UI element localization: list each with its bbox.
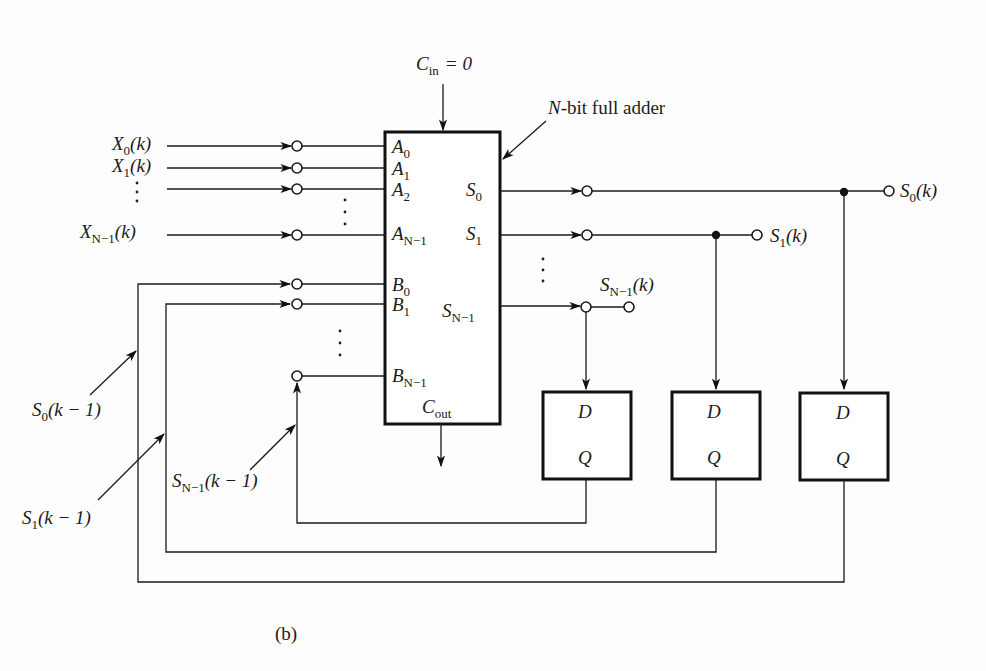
input-xn1-label: XN−1(k): [79, 221, 136, 246]
ff3-d: D: [835, 402, 850, 423]
x-inputs: X0(k) X1(k) XN−1(k): [79, 133, 385, 246]
carry-in: Cin= 0: [416, 53, 472, 130]
feedback-s1-label: S1(k − 1): [22, 507, 91, 532]
feedback-s0-label: S0(k − 1): [32, 399, 101, 424]
circuit-diagram: Cin= 0 A0 A1 A2 AN−1 B0 B1 BN−1 S0 S1 SN…: [0, 0, 986, 671]
figure-caption: (b): [275, 623, 297, 645]
terminal-a2: [292, 184, 302, 194]
carry-in-label: Cin= 0: [416, 53, 472, 78]
ff3-q: Q: [836, 448, 850, 469]
output-s0-label: S0(k): [900, 180, 937, 205]
ff2-q: Q: [707, 447, 721, 468]
feedback-sn1-pointer: [250, 425, 295, 470]
full-adder-block: A0 A1 A2 AN−1 B0 B1 BN−1 S0 S1 SN−1 Cout: [385, 132, 500, 466]
output-ellipsis: [542, 258, 545, 283]
terminal-s1-out: [582, 230, 592, 240]
terminal-bn1: [292, 371, 302, 381]
s-outputs: S0(k) S1(k) SN−1(k): [500, 180, 937, 389]
feedback-labels: S0(k − 1) S1(k − 1) SN−1(k − 1): [22, 351, 295, 532]
diagram-canvas: Cin= 0 A0 A1 A2 AN−1 B0 B1 BN−1 S0 S1 SN…: [0, 0, 986, 671]
flip-flop-3: D Q: [800, 393, 888, 480]
output-terminal-s1: [752, 230, 762, 240]
terminal-b1: [292, 299, 302, 309]
flip-flop-1: D Q: [543, 392, 631, 479]
output-terminal-sn1: [624, 302, 634, 312]
annotation-arrow: [503, 121, 546, 159]
flip-flop-2: D Q: [672, 392, 760, 479]
terminal-a0: [292, 141, 302, 151]
ff2-d: D: [706, 401, 721, 422]
ff1-q: Q: [578, 447, 592, 468]
annotation-label: N-bit full adder: [547, 97, 666, 118]
output-terminal-s0: [884, 186, 894, 196]
terminal-b0: [292, 279, 302, 289]
input-x1-label: X1(k): [111, 155, 151, 180]
feedback-sn1-label: SN−1(k − 1): [172, 470, 258, 495]
feedback-s0-pointer: [90, 351, 136, 395]
terminal-an1: [292, 230, 302, 240]
input-ellipsis: [136, 182, 139, 203]
feedback-s1-pointer: [98, 434, 164, 500]
terminal-s0-out: [582, 186, 592, 196]
terminal-sn1-out: [581, 302, 591, 312]
b-port-ellipsis: [339, 330, 342, 357]
ff1-d: D: [577, 401, 592, 422]
adder-annotation: N-bit full adder: [503, 97, 666, 159]
terminal-a1: [292, 163, 302, 173]
output-sn1-label: SN−1(k): [600, 274, 654, 299]
a-port-ellipsis: [344, 199, 347, 226]
b-inputs: [292, 279, 385, 381]
output-s1-label: S1(k): [770, 225, 807, 250]
